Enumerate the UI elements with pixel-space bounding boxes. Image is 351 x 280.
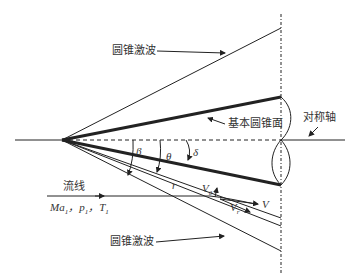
conical-shock-diagram: 圆锥激波 基本圆锥面 对称轴 流线 圆锥激波 Ma1，p1，T1 β θ δ r… — [0, 0, 351, 280]
label-shock-top: 圆锥激波 — [112, 45, 156, 56]
label-v-theta: Vθ — [202, 183, 212, 197]
v-r-sub: r — [237, 208, 240, 216]
symmetry-axis-pointer — [309, 127, 318, 136]
label-delta: δ — [193, 147, 198, 158]
label-r: r — [172, 180, 176, 191]
v-theta-sub: θ — [209, 189, 212, 197]
sep-1: ， — [68, 201, 79, 213]
vtheta-vector — [215, 188, 217, 197]
theta-arc — [157, 140, 161, 172]
label-symmetry-axis: 对称轴 — [303, 112, 336, 123]
v-theta-main: V — [202, 182, 209, 194]
shock-top-pointer — [157, 51, 225, 53]
label-shock-bottom: 圆锥激波 — [110, 236, 154, 247]
label-cone-surface: 基本圆锥面 — [228, 118, 283, 129]
label-v-r: Vr — [230, 202, 239, 216]
label-streamline: 流线 — [63, 181, 85, 192]
delta-arc — [186, 140, 190, 160]
beta-arc — [128, 140, 133, 175]
label-freestream-conditions: Ma1，p1，T1 — [50, 202, 109, 216]
v-r-main: V — [230, 201, 237, 213]
shock-bottom-pointer — [156, 236, 224, 242]
sep-2: ， — [88, 201, 99, 213]
freestream-ma: Ma — [50, 201, 65, 213]
freestream-t-sub: 1 — [105, 208, 109, 216]
label-theta: θ — [166, 151, 171, 162]
diagram-canvas — [0, 0, 351, 280]
label-v: V — [262, 199, 269, 210]
label-beta: β — [136, 146, 141, 157]
cone-surface-pointer — [208, 118, 225, 124]
